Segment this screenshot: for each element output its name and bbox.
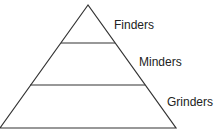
pyramid-diagram bbox=[0, 0, 217, 138]
label-finders: Finders bbox=[114, 19, 154, 31]
label-minders: Minders bbox=[139, 56, 182, 68]
label-grinders: Grinders bbox=[167, 96, 213, 108]
